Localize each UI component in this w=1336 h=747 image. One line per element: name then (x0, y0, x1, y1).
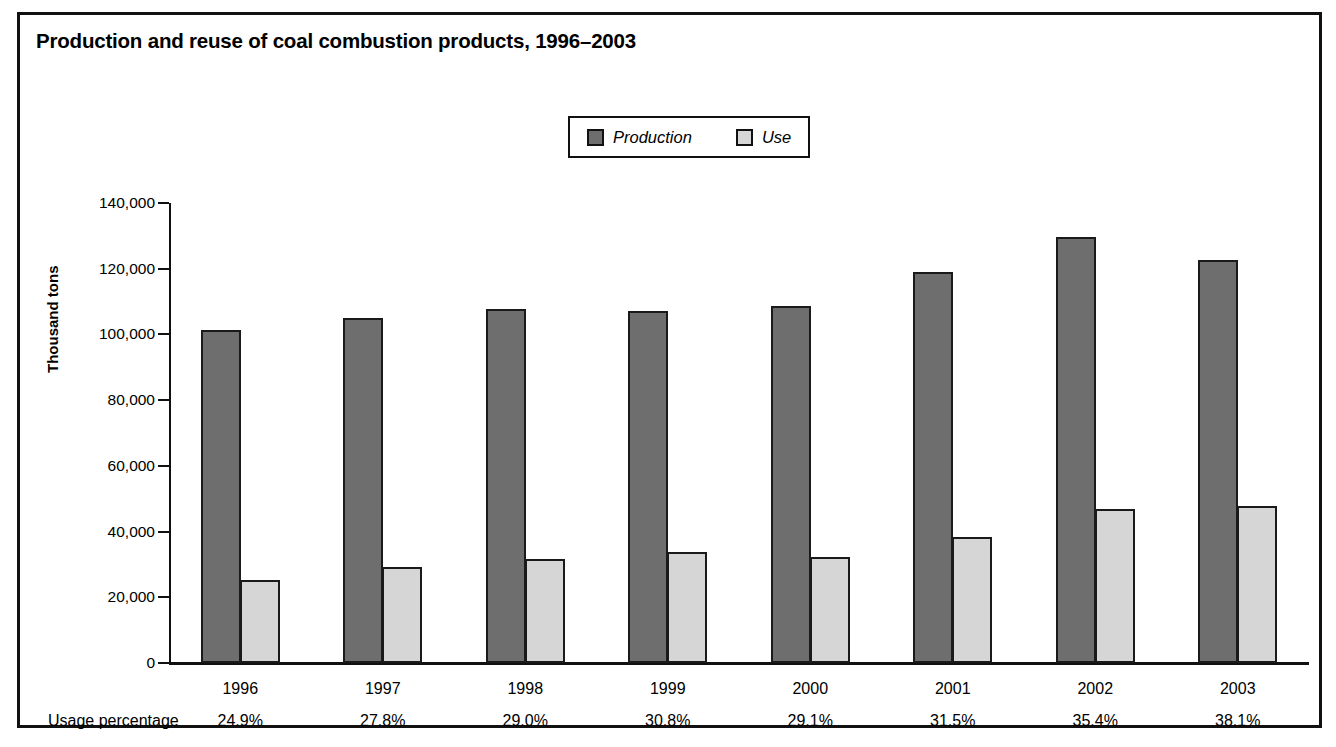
bar-production-2002 (1056, 237, 1096, 663)
bar-use-2000 (810, 557, 850, 663)
figure-frame: Production and reuse of coal combustion … (17, 12, 1322, 728)
y-axis-tick (158, 465, 169, 467)
bar-production-2001 (913, 272, 953, 663)
usage-percentage-2003: 38.1% (1178, 712, 1298, 730)
usage-percentage-values: 24.9%27.8%29.0%30.8%29.1%31.5%35.4%38.1% (169, 712, 1309, 736)
legend-entry-use: Use (736, 128, 791, 147)
bar-group (486, 203, 565, 663)
bar-production-1997 (343, 318, 383, 663)
y-axis-tick (158, 662, 169, 664)
bar-production-1996 (201, 330, 241, 663)
bar-use-1999 (667, 552, 707, 663)
bar-group (1198, 203, 1277, 663)
page-title: Production and reuse of coal combustion … (36, 29, 636, 53)
legend-entry-production: Production (587, 128, 692, 147)
usage-percentage-1999: 30.8% (608, 712, 728, 730)
bar-group (343, 203, 422, 663)
x-axis-label-1996: 1996 (180, 680, 300, 698)
y-axis-line (169, 203, 171, 663)
y-axis-tick-label: 140,000 (45, 194, 155, 212)
x-axis-label-1997: 1997 (323, 680, 443, 698)
bar-production-2003 (1198, 260, 1238, 663)
usage-percentage-2002: 35.4% (1035, 712, 1155, 730)
y-axis-tick-label: 100,000 (45, 325, 155, 343)
y-axis-tick (158, 596, 169, 598)
y-axis-tick (158, 531, 169, 533)
usage-percentage-row-label: Usage percentage (48, 712, 179, 730)
x-axis-label-1998: 1998 (465, 680, 585, 698)
x-axis-line (169, 662, 1309, 665)
bar-use-1997 (382, 567, 422, 663)
bar-use-1998 (525, 559, 565, 663)
x-axis-label-2000: 2000 (750, 680, 870, 698)
usage-percentage-1998: 29.0% (465, 712, 585, 730)
bar-production-1998 (486, 309, 526, 663)
x-axis-label-2002: 2002 (1035, 680, 1155, 698)
legend-swatch-production-icon (587, 129, 604, 146)
plot-area: 140,000120,000100,00080,00060,00040,0002… (169, 203, 1309, 663)
bar-group (628, 203, 707, 663)
bar-use-2003 (1237, 506, 1277, 663)
bar-production-2000 (771, 306, 811, 663)
bar-use-2001 (952, 537, 992, 663)
y-axis-tick-label: 0 (45, 654, 155, 672)
y-axis-tick (158, 268, 169, 270)
y-axis-tick (158, 399, 169, 401)
usage-percentage-2000: 29.1% (750, 712, 870, 730)
x-axis-label-2001: 2001 (893, 680, 1013, 698)
bar-group (1056, 203, 1135, 663)
x-axis-label-2003: 2003 (1178, 680, 1298, 698)
x-axis-category-labels: 19961997199819992000200120022003 (169, 680, 1309, 704)
usage-percentage-2001: 31.5% (893, 712, 1013, 730)
legend-label-use: Use (762, 128, 791, 147)
y-axis-title: Thousand tons (44, 266, 61, 374)
bar-group (771, 203, 850, 663)
y-axis-tick-label: 80,000 (45, 391, 155, 409)
y-axis-tick (158, 202, 169, 204)
y-axis-tick-label: 120,000 (45, 260, 155, 278)
y-axis-tick-label: 40,000 (45, 523, 155, 541)
bar-group (913, 203, 992, 663)
bar-production-1999 (628, 311, 668, 663)
usage-percentage-1996: 24.9% (180, 712, 300, 730)
legend-label-production: Production (613, 128, 692, 147)
chart-legend: Production Use (568, 116, 810, 158)
bar-use-2002 (1095, 509, 1135, 663)
x-axis-label-1999: 1999 (608, 680, 728, 698)
bar-use-1996 (240, 580, 280, 663)
y-axis-tick-label: 20,000 (45, 588, 155, 606)
bar-group (201, 203, 280, 663)
legend-swatch-use-icon (736, 129, 753, 146)
y-axis-tick (158, 333, 169, 335)
y-axis-tick-label: 60,000 (45, 457, 155, 475)
usage-percentage-1997: 27.8% (323, 712, 443, 730)
